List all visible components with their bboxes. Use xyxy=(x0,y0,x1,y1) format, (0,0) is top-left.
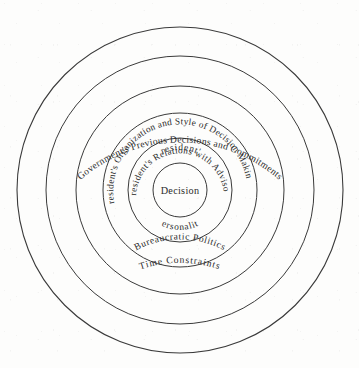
diagram-canvas: Government's Previous Decisions and Comm… xyxy=(0,0,359,368)
ring-label-6-bottom: Personality xyxy=(0,0,200,232)
ring-label-2: Time Constraints xyxy=(138,254,223,272)
ring-label-6-top: President's xyxy=(0,0,203,157)
core-label-decision: Decision xyxy=(161,185,200,196)
concentric-circles-diagram: Government's Previous Decisions and Comm… xyxy=(0,0,359,368)
ring-label-1: Government's Previous Decisions and Comm… xyxy=(75,133,286,181)
